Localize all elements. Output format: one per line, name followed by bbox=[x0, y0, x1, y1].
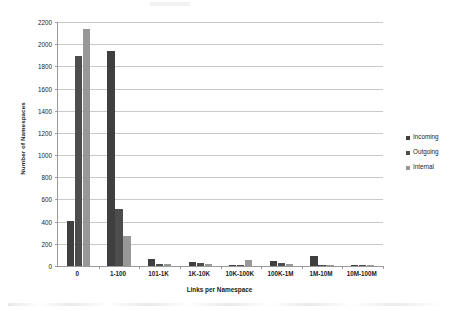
scan-artifact bbox=[8, 303, 460, 306]
bar bbox=[107, 51, 114, 266]
x-tick-mark bbox=[383, 266, 384, 269]
x-tick-mark bbox=[180, 266, 181, 269]
x-tick-mark bbox=[221, 266, 222, 269]
legend-item[interactable]: Incoming bbox=[406, 130, 468, 145]
x-tick-mark bbox=[99, 266, 100, 269]
bar bbox=[237, 265, 244, 266]
x-tick-label: 0 bbox=[76, 270, 80, 277]
y-tick-label: 1400 bbox=[4, 107, 52, 114]
y-tick-label: 600 bbox=[4, 196, 52, 203]
bar-group bbox=[342, 22, 383, 266]
x-tick-mark bbox=[342, 266, 343, 269]
bar bbox=[229, 265, 236, 266]
x-tick-label: 10K-100K bbox=[225, 270, 254, 277]
x-tick-mark bbox=[302, 266, 303, 269]
y-tick-label: 2000 bbox=[4, 41, 52, 48]
scan-artifact-top bbox=[150, 2, 190, 6]
bar-group bbox=[99, 22, 140, 266]
y-tick-label: 400 bbox=[4, 218, 52, 225]
bar bbox=[115, 209, 122, 266]
legend-swatch-icon bbox=[406, 166, 410, 170]
legend-item[interactable]: Outgoing bbox=[406, 145, 468, 160]
x-tick-label: 100K-1M bbox=[267, 270, 293, 277]
bar bbox=[245, 260, 252, 266]
bar-chart: Number of Namespaces 0200400600800100012… bbox=[0, 0, 470, 311]
bar bbox=[123, 236, 130, 266]
bar bbox=[156, 264, 163, 266]
y-tick-label: 200 bbox=[4, 240, 52, 247]
bar-group bbox=[261, 22, 302, 266]
bar bbox=[359, 265, 366, 266]
bar bbox=[75, 56, 82, 266]
x-tick-label: 101-1K bbox=[148, 270, 169, 277]
bar bbox=[197, 263, 204, 266]
y-tick-label: 2200 bbox=[4, 19, 52, 26]
bar-group bbox=[180, 22, 221, 266]
bar-group bbox=[221, 22, 262, 266]
bar bbox=[278, 263, 285, 266]
y-tick-label: 800 bbox=[4, 174, 52, 181]
bar bbox=[83, 29, 90, 266]
bar bbox=[326, 265, 333, 266]
bar bbox=[351, 265, 358, 266]
bar bbox=[286, 264, 293, 266]
bar bbox=[318, 265, 325, 266]
x-tick-mark bbox=[261, 266, 262, 269]
bar-group bbox=[139, 22, 180, 266]
bar bbox=[164, 264, 171, 266]
legend-label: Internal bbox=[413, 164, 434, 170]
bar bbox=[270, 261, 277, 266]
x-tick-mark bbox=[139, 266, 140, 269]
plot-area bbox=[57, 22, 383, 267]
bar bbox=[189, 262, 196, 266]
legend-label: Outgoing bbox=[413, 149, 439, 155]
bar bbox=[205, 264, 212, 266]
x-axis-title: Links per Namespace bbox=[57, 286, 382, 293]
legend-swatch-icon bbox=[406, 136, 410, 140]
bar bbox=[367, 265, 374, 266]
y-tick-label: 0 bbox=[4, 263, 52, 270]
x-tick-label: 1K-10K bbox=[188, 270, 210, 277]
bar-group bbox=[302, 22, 343, 266]
bar-group bbox=[58, 22, 99, 266]
y-tick-label: 1200 bbox=[4, 129, 52, 136]
y-tick-label: 1000 bbox=[4, 152, 52, 159]
legend-label: Incoming bbox=[413, 134, 439, 140]
y-tick-label: 1600 bbox=[4, 85, 52, 92]
bar bbox=[310, 256, 317, 266]
bar bbox=[67, 221, 74, 266]
y-tick-mark bbox=[55, 266, 58, 267]
chart-legend: IncomingOutgoingInternal bbox=[406, 130, 468, 175]
bar bbox=[148, 259, 155, 266]
legend-item[interactable]: Internal bbox=[406, 160, 468, 175]
x-tick-label: 1-100 bbox=[110, 270, 126, 277]
legend-swatch-icon bbox=[406, 151, 410, 155]
y-tick-label: 1800 bbox=[4, 63, 52, 70]
x-tick-label: 1M-10M bbox=[310, 270, 333, 277]
x-tick-label: 10M-100M bbox=[347, 270, 377, 277]
